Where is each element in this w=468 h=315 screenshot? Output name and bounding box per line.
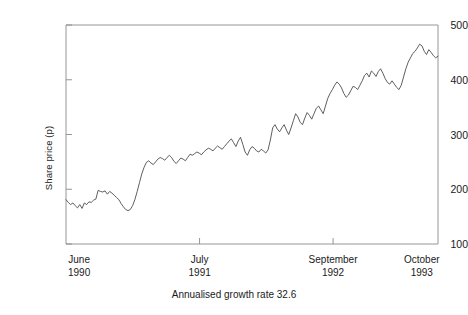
x-tick-label: September1992 (309, 254, 358, 279)
x-tick-label: July1991 (189, 254, 211, 279)
axis-lines (66, 25, 438, 244)
x-tick-year: 1990 (68, 267, 90, 280)
y-tick-label: 400 (412, 74, 468, 86)
x-tick-month: September (309, 254, 358, 267)
share-price-line (66, 44, 438, 210)
share-price-chart-figure: Share price (p) 100200300400500 June1990… (0, 0, 468, 315)
x-tick-year: 1991 (189, 267, 211, 280)
x-tick-year: 1992 (309, 267, 358, 280)
y-tick-label: 100 (412, 238, 468, 250)
chart-caption: Annualised growth rate 32.6 (0, 289, 468, 300)
x-tick-month: June (68, 254, 90, 267)
x-tick-month: October (404, 254, 440, 267)
x-tick-month: July (189, 254, 211, 267)
x-tick-year: 1993 (404, 267, 440, 280)
x-tick-label: June1990 (68, 254, 90, 279)
y-tick-label: 500 (412, 19, 468, 31)
y-axis: Share price (p) (0, 0, 62, 315)
y-tick-label: 300 (412, 129, 468, 141)
y-axis-title: Share price (p) (43, 78, 54, 238)
y-tick-label: 200 (412, 183, 468, 195)
x-tick-label: October1993 (404, 254, 440, 279)
axis-ticks (66, 25, 333, 244)
